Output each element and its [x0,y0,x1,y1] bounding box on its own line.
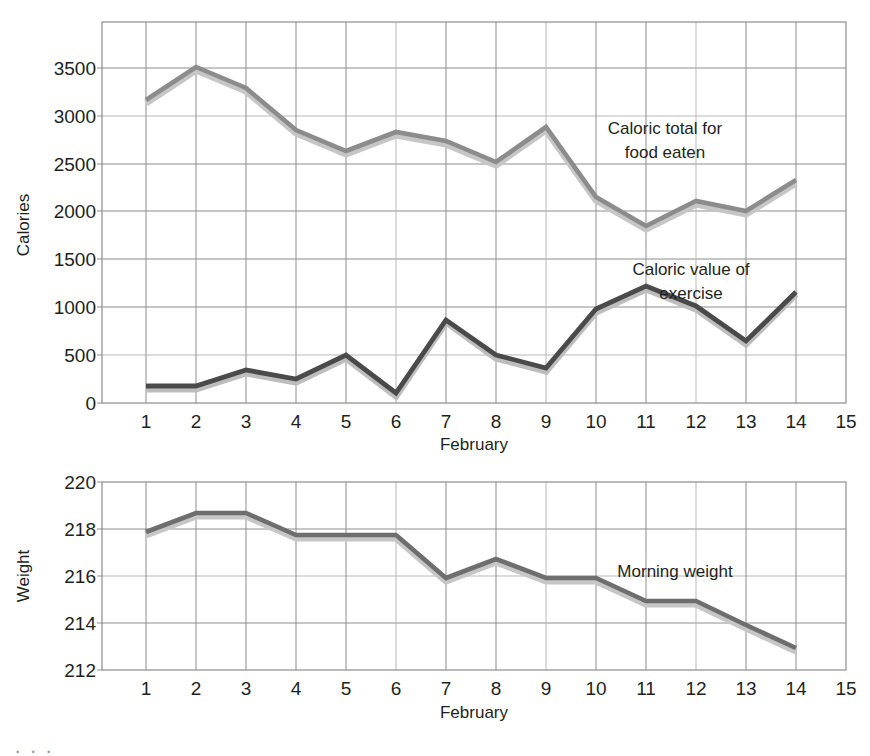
calories-xtick: 10 [585,411,606,432]
weight-xtick: 11 [636,678,656,699]
calories-ytick: 3000 [54,106,96,127]
weight-xtick: 7 [441,678,452,699]
weight-ytick: 218 [64,519,96,540]
weight-xtick: 15 [835,678,856,699]
weight-x-axis-title: February [440,703,509,722]
calories-xtick: 4 [291,411,302,432]
calories-xtick: 7 [441,411,452,432]
weight-ytick: 220 [64,472,96,493]
calories-x-tick-labels: 1 2 3 4 5 6 7 8 9 10 11 12 13 14 15 [141,411,857,432]
exercise-annotation-line-1: Caloric value of [632,260,749,279]
weight-xtick: 6 [391,678,402,699]
weight-xtick: 3 [241,678,252,699]
calories-xtick: 15 [835,411,856,432]
weight-y-axis-title: Weight [14,549,33,602]
calories-xtick: 8 [491,411,502,432]
calories-xtick: 9 [541,411,552,432]
exercise-annotation-line-2: exercise [659,284,722,303]
calories-xtick: 6 [391,411,402,432]
food-annotation-line-2: food eaten [625,143,705,162]
calories-y-tick-labels: 3500 3000 2500 2000 1500 1000 500 0 [54,58,96,414]
calories-ytick: 1000 [54,297,96,318]
calories-xtick: 5 [341,411,352,432]
calories-xtick: 11 [636,411,656,432]
weight-chart-svg: 220 218 216 214 212 1 2 3 4 5 6 7 8 9 10… [0,455,870,756]
calories-ytick: 0 [85,393,96,414]
calories-ytick: 3500 [54,58,96,79]
weight-ytick: 212 [64,660,96,681]
page-corner-mark: · · · [14,738,53,756]
calories-y-axis-title: Calories [14,194,33,256]
weight-ytick: 216 [64,566,96,587]
weight-x-tick-labels: 1 2 3 4 5 6 7 8 9 10 11 12 13 14 15 [141,678,857,699]
calories-ytick: 1500 [54,249,96,270]
calories-ytick: 2000 [54,201,96,222]
weight-ytick: 214 [64,613,96,634]
calories-xtick: 12 [685,411,706,432]
weight-xtick: 10 [585,678,606,699]
calories-xtick: 1 [141,411,152,432]
calories-xtick: 13 [735,411,756,432]
calories-ytick: 500 [64,345,96,366]
weight-xtick: 9 [541,678,552,699]
weight-xtick: 4 [291,678,302,699]
weight-y-tick-marks [97,482,102,670]
weight-xtick: 8 [491,678,502,699]
weight-xtick: 13 [735,678,756,699]
weight-xtick: 14 [785,678,807,699]
weight-annotation: Morning weight [617,562,733,581]
weight-y-tick-labels: 220 218 216 214 212 [64,472,96,681]
calories-chart-svg: 3500 3000 2500 2000 1500 1000 500 0 1 2 … [0,0,870,455]
calories-xtick: 14 [785,411,807,432]
calories-xtick: 2 [191,411,202,432]
weight-xtick: 1 [141,678,152,699]
calories-x-axis-title: February [440,435,509,454]
weight-chart: 220 218 216 214 212 1 2 3 4 5 6 7 8 9 10… [0,455,870,756]
calories-chart: 3500 3000 2500 2000 1500 1000 500 0 1 2 … [0,0,870,455]
food-annotation-line-1: Caloric total for [608,119,723,138]
calories-ytick: 2500 [54,154,96,175]
calories-xtick: 3 [241,411,252,432]
weight-xtick: 5 [341,678,352,699]
calories-y-tick-marks [97,68,102,403]
weight-xtick: 2 [191,678,202,699]
weight-xtick: 12 [685,678,706,699]
